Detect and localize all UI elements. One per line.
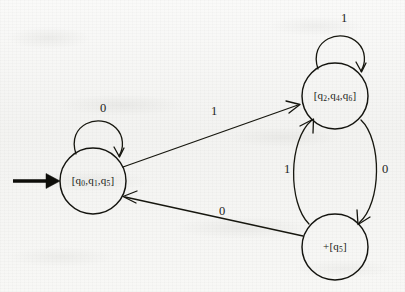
edge-path-s1-s2: [359, 120, 377, 223]
edge-label-s0-s1: 1: [211, 104, 217, 118]
state-node-s0[interactable]: [q0,q1,q5]: [60, 148, 126, 214]
edge-label-s2-s1: 1: [284, 162, 290, 176]
state-label-s1: [q2,q4,q6]: [314, 89, 357, 103]
state-label-s2: +[q5]: [323, 240, 347, 254]
transition-s1-to-s2-0[interactable]: 0: [357, 120, 388, 225]
edge-path-s2-s0: [125, 197, 303, 236]
state-node-s2[interactable]: +[q5]: [302, 214, 368, 280]
start-arrow-head: [46, 174, 60, 189]
state-label-s0: [q0,q1,q5]: [72, 174, 115, 188]
diagram-canvas: s0 (self loop, top) ============ --> 0 s…: [0, 0, 405, 292]
edge-label-s1-s2: 0: [382, 162, 388, 176]
edge-path-s2-s1: [294, 120, 312, 224]
state-node-s1[interactable]: [q2,q4,q6]: [302, 63, 368, 129]
transition-s0-to-s1-1[interactable]: 1: [123, 101, 300, 167]
edge-label-s0-self: 0: [100, 101, 106, 115]
transition-s2-to-s0-0[interactable]: 0: [123, 191, 303, 236]
arrow-head-s2-s0: [123, 191, 137, 203]
edge-label-s1-self: 1: [341, 11, 347, 25]
state-diagram: s0 (self loop, top) ============ --> 0 s…: [0, 0, 405, 292]
transition-s2-to-s1-1[interactable]: 1: [284, 119, 314, 224]
edge-label-s2-s0: 0: [219, 204, 225, 218]
start-arrow: [13, 174, 60, 189]
